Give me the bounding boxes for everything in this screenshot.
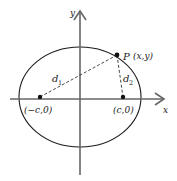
point-p-name: P: [122, 51, 130, 62]
d1-subscript: 1: [58, 79, 62, 87]
ellipse-diagram: y x P (x,y) d 1 d 2 (−c,0) (c,0): [0, 0, 177, 181]
focus-left-point: [38, 95, 42, 99]
focus-right-label: (c,0): [113, 105, 134, 115]
x-axis-label: x: [163, 105, 168, 115]
focus-left-label: (−c,0): [24, 105, 53, 115]
point-p: [115, 53, 120, 58]
focus-right-point: [121, 95, 125, 99]
d2-subscript: 2: [129, 79, 133, 87]
y-axis-label: y: [69, 8, 76, 18]
point-p-coords: (x,y): [133, 51, 154, 61]
